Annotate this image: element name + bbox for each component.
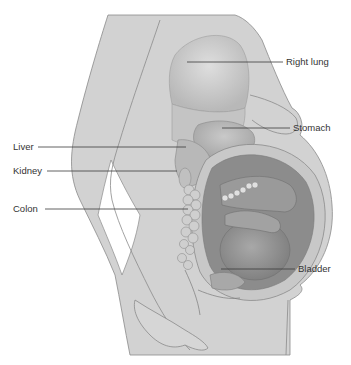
label-bladder: Bladder — [298, 264, 331, 274]
label-liver: Liver — [13, 142, 34, 152]
label-kidney: Kidney — [13, 166, 42, 176]
label-colon: Colon — [13, 204, 38, 214]
pregnant-torso-illustration — [0, 0, 351, 365]
label-right-lung: Right lung — [286, 57, 329, 67]
anatomy-figure: Right lung Stomach Liver Kidney Colon Bl… — [0, 0, 351, 365]
label-stomach: Stomach — [293, 123, 331, 133]
